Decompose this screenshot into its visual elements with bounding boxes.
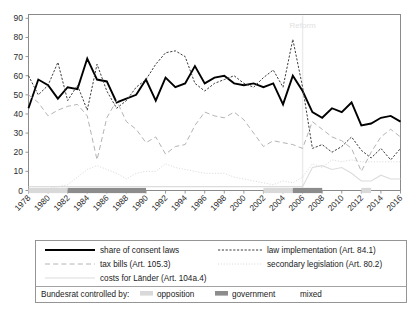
chart-canvas: 0102030405060708090 19781980198219841986… — [0, 0, 416, 319]
y-tick-label: 60 — [14, 71, 24, 81]
control-band-opposition — [361, 188, 371, 193]
reform-marker-label: Reform — [289, 21, 316, 30]
canvas-background — [0, 0, 416, 319]
legend-label-secondary: secondary legislation (Art. 80.2) — [267, 260, 382, 269]
y-tick-label: 0 — [18, 186, 23, 196]
y-tick-label: 10 — [14, 166, 24, 176]
y-tick-label: 70 — [14, 52, 24, 62]
control-legend-title: Bundesrat controlled by: — [41, 290, 129, 299]
y-tick-label: 30 — [14, 128, 24, 138]
y-tick-label: 80 — [14, 32, 24, 42]
annotation-layer: Reform — [289, 21, 316, 30]
control-band-government — [68, 188, 146, 193]
control-legend-label-mixed: mixed — [300, 290, 322, 299]
control-legend-label-government: government — [232, 290, 276, 299]
control-band-opposition — [263, 188, 292, 193]
control-swatch-opposition — [140, 291, 153, 296]
legend-label-tax: tax bills (Art. 105.3) — [100, 260, 171, 269]
legend-label-costs: costs for Länder (Art. 104a.4) — [100, 274, 207, 283]
control-swatch-government — [215, 291, 228, 296]
legend-label-consent: share of consent laws — [100, 246, 179, 255]
legend-label-law_impl: law implementation (Art. 84.1) — [267, 246, 376, 255]
y-tick-label: 50 — [14, 90, 24, 100]
y-tick-label: 40 — [14, 109, 24, 119]
chart-figure: 0102030405060708090 19781980198219841986… — [0, 0, 416, 319]
control-band-government — [293, 188, 322, 193]
control-legend-label-opposition: opposition — [157, 290, 195, 299]
y-tick-label: 20 — [14, 147, 24, 157]
y-tick-label: 90 — [14, 13, 24, 23]
